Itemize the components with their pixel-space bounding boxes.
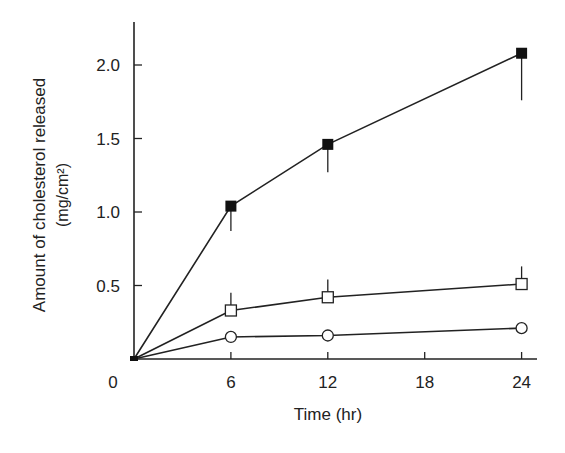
filled-square-marker (322, 139, 333, 150)
series-open-circle (134, 323, 527, 359)
series-group (130, 48, 527, 361)
y-tick-label: 0.5 (96, 277, 120, 296)
y-tick-label: 2.0 (96, 56, 120, 75)
y-axis-units: (mg/cm²) (54, 163, 71, 227)
y-tick-label: 1.0 (96, 203, 120, 222)
open-square-marker (225, 305, 236, 316)
x-tick-label: 0 (108, 373, 117, 392)
series-line (134, 53, 522, 359)
x-tick-label: 24 (512, 373, 531, 392)
origin-marker (130, 356, 138, 361)
series-filled-square (134, 48, 527, 359)
open-circle-marker (516, 323, 527, 334)
chart: 061218240.51.01.52.0 Time (hr) Amount of… (0, 0, 565, 453)
y-axis-label: Amount of cholesterol released (30, 78, 49, 312)
x-tick-label: 18 (415, 373, 434, 392)
filled-square-marker (516, 48, 527, 59)
x-tick-label: 12 (318, 373, 337, 392)
y-tick-label: 1.5 (96, 130, 120, 149)
open-circle-marker (225, 331, 236, 342)
x-tick-label: 6 (226, 373, 235, 392)
x-axis-label: Time (hr) (294, 405, 362, 424)
open-square-marker (516, 279, 527, 290)
filled-square-marker (225, 201, 236, 212)
open-square-marker (322, 292, 333, 303)
open-circle-marker (322, 330, 333, 341)
